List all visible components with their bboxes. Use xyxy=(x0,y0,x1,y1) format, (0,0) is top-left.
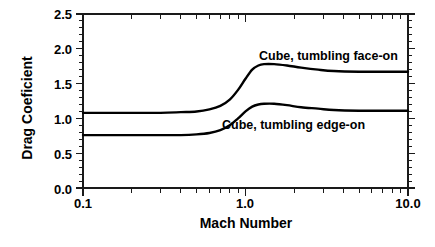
x-tick-label-1: 1.0 xyxy=(215,197,275,210)
y-tick-label-3: 1.5 xyxy=(32,78,72,91)
axis-ticks xyxy=(76,14,415,196)
y-tick-label-2: 1.0 xyxy=(32,113,72,126)
x-tick-label-0: 0.1 xyxy=(53,197,113,210)
x-axis-label: Mach Number xyxy=(170,216,322,230)
y-tick-label-5: 2.5 xyxy=(32,8,72,21)
annotation-edge-on: Cube, tumbling edge-on xyxy=(222,119,365,132)
axis-frame xyxy=(83,14,408,188)
y-tick-label-1: 0.5 xyxy=(32,148,72,161)
y-tick-label-4: 2.0 xyxy=(32,43,72,56)
annotation-face-on: Cube, tumbling face-on xyxy=(259,50,398,63)
y-tick-label-0: 0.0 xyxy=(32,183,72,196)
curve-face-on xyxy=(83,64,408,113)
chart-figure: Drag Coeficient Mach Number 0.0 0.5 1.0 … xyxy=(0,0,435,247)
x-tick-label-2: 10.0 xyxy=(378,197,435,210)
